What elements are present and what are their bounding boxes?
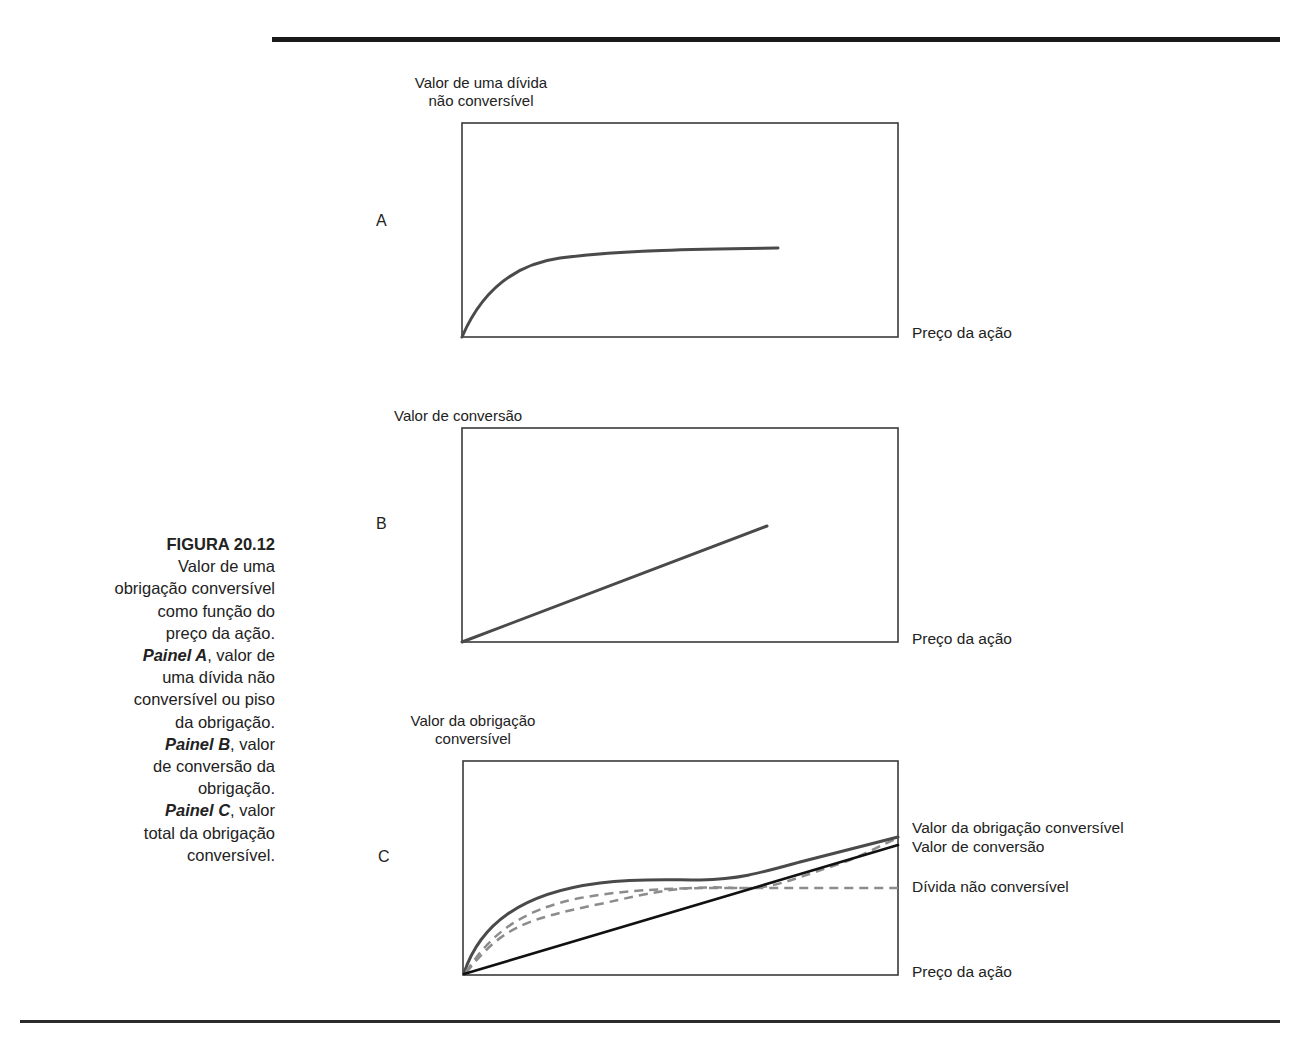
- plots-canvas: [0, 0, 1310, 1059]
- panel-b-chart: [462, 428, 898, 642]
- conversion-value-line-c: [464, 845, 898, 974]
- conversion-value-line: [462, 526, 767, 642]
- convertible-bond-value-curve: [464, 837, 898, 973]
- unused: [464, 838, 898, 973]
- panel-a-frame: [462, 123, 898, 337]
- panel-c-chart: [463, 761, 898, 975]
- panel-c-frame: [463, 761, 898, 975]
- straight-debt-curve: [462, 248, 778, 337]
- straight-debt-dashed-line: [466, 838, 898, 973]
- panel-b-frame: [462, 428, 898, 642]
- panel-a-chart: [462, 123, 898, 337]
